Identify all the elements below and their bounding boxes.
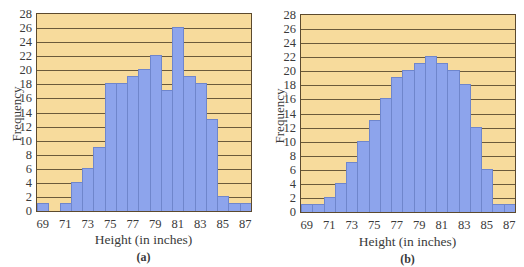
y-tick-label: 18	[274, 79, 296, 91]
x-tick-label: 77	[385, 218, 409, 233]
gridline	[37, 42, 251, 43]
y-tick-label: 28	[274, 9, 296, 21]
histogram-bar	[240, 203, 252, 211]
x-tick-label: 87	[233, 217, 257, 232]
x-tick-label: 83	[452, 218, 476, 233]
y-tick-label: 20	[274, 65, 296, 77]
y-tick-label: 4	[274, 178, 296, 190]
y-tick-label: 10	[10, 135, 32, 147]
y-tick-label: 0	[274, 206, 296, 218]
y-tick-label: 26	[274, 23, 296, 35]
y-tick-label: 28	[10, 8, 32, 20]
y-tick-label: 2	[274, 192, 296, 204]
y-tick-label: 14	[274, 108, 296, 120]
y-tick-label: 14	[10, 107, 32, 119]
y-tick-label: 16	[10, 92, 32, 104]
x-tick-label: 83	[188, 217, 212, 232]
y-tick-label: 12	[10, 121, 32, 133]
histogram-bar	[504, 204, 516, 212]
gridline	[37, 28, 251, 29]
x-tick-label: 73	[340, 218, 364, 233]
x-axis-label: Height (in inches)	[300, 234, 515, 250]
x-tick-label: 71	[53, 217, 77, 232]
y-tick-label: 22	[274, 51, 296, 63]
y-tick-label: 22	[10, 50, 32, 62]
y-tick-label: 8	[10, 149, 32, 161]
y-tick-label: 26	[10, 22, 32, 34]
histogram-bar	[37, 203, 49, 211]
y-tick-label: 2	[10, 191, 32, 203]
x-tick-label: 75	[98, 217, 122, 232]
x-tick-label: 75	[362, 218, 386, 233]
x-tick-label: 81	[430, 218, 454, 233]
y-tick-label: 10	[274, 136, 296, 148]
x-tick-label: 77	[121, 217, 145, 232]
gridline	[301, 29, 515, 30]
chart-caption: (a)	[36, 250, 251, 265]
y-tick-label: 24	[10, 36, 32, 48]
x-tick-label: 85	[475, 218, 499, 233]
y-tick-label: 12	[274, 122, 296, 134]
chart-caption: (b)	[300, 252, 515, 267]
histogram-a: Frequency Height (in inches) (a) 0246810…	[0, 0, 262, 267]
y-tick-label: 6	[274, 164, 296, 176]
x-tick-label: 79	[143, 217, 167, 232]
x-tick-label: 85	[211, 217, 235, 232]
histogram-b: Frequency Height (in inches) (b) 0246810…	[262, 0, 524, 267]
x-tick-label: 81	[166, 217, 190, 232]
gridline	[301, 57, 515, 58]
gridline	[301, 43, 515, 44]
plot-area	[36, 13, 252, 212]
x-tick-label: 79	[407, 218, 431, 233]
y-tick-label: 6	[10, 163, 32, 175]
plot-area	[300, 14, 516, 213]
x-tick-label: 69	[295, 218, 319, 233]
y-tick-label: 0	[10, 205, 32, 217]
gridline	[37, 56, 251, 57]
y-tick-label: 8	[274, 150, 296, 162]
y-tick-label: 24	[274, 37, 296, 49]
x-tick-label: 69	[31, 217, 55, 232]
y-tick-label: 20	[10, 64, 32, 76]
y-tick-label: 4	[10, 177, 32, 189]
x-tick-label: 73	[76, 217, 100, 232]
x-axis-label: Height (in inches)	[36, 232, 251, 248]
y-tick-label: 18	[10, 78, 32, 90]
x-tick-label: 87	[497, 218, 521, 233]
y-tick-label: 16	[274, 93, 296, 105]
x-tick-label: 71	[317, 218, 341, 233]
